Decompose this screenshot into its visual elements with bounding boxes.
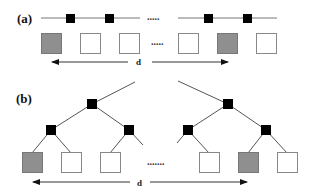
panel-a-label: (a) bbox=[17, 11, 32, 26]
node bbox=[204, 14, 213, 23]
leaf bbox=[101, 153, 121, 173]
leaf-highlighted bbox=[239, 153, 259, 173]
node bbox=[66, 14, 75, 23]
panel-b-distance-arrow: d bbox=[33, 178, 247, 188]
panel-a-chain-right bbox=[178, 14, 277, 23]
distance-label: d bbox=[137, 178, 142, 188]
box bbox=[81, 34, 101, 54]
distance-label: d bbox=[136, 57, 141, 67]
node bbox=[261, 125, 271, 135]
ellipsis: ..... bbox=[147, 11, 160, 22]
leaf-highlighted bbox=[23, 153, 43, 173]
node bbox=[243, 14, 252, 23]
panel-b-tree-right-nodes bbox=[183, 99, 271, 135]
ellipsis: ....... bbox=[147, 156, 165, 167]
panel-b-tree-right bbox=[177, 81, 287, 153]
box bbox=[120, 34, 140, 54]
ellipsis: ..... bbox=[151, 36, 164, 47]
panel-b-tree-left bbox=[32, 82, 143, 153]
box bbox=[257, 34, 277, 54]
panel-b-label: (b) bbox=[16, 91, 32, 106]
node bbox=[87, 99, 97, 109]
panel-a-distance-arrow: d bbox=[52, 57, 228, 67]
panel-b-leaves-left bbox=[23, 153, 121, 173]
box-highlighted bbox=[218, 34, 238, 54]
leaf bbox=[200, 153, 220, 173]
panel-a-chain-left bbox=[41, 14, 140, 23]
panel-b-leaves-right bbox=[200, 153, 298, 173]
leaf bbox=[62, 153, 82, 173]
box-highlighted bbox=[42, 34, 62, 54]
node bbox=[105, 14, 114, 23]
panel-a: (a) ..... ..... d bbox=[17, 11, 277, 67]
node bbox=[46, 125, 56, 135]
panel-b-tree-left-nodes bbox=[46, 99, 134, 135]
panel-b: (b) ....... bbox=[16, 81, 298, 188]
leaf bbox=[278, 153, 298, 173]
diagram: (a) ..... ..... d (b) bbox=[0, 0, 313, 196]
box bbox=[179, 34, 199, 54]
node bbox=[124, 125, 134, 135]
panel-a-boxes: ..... bbox=[42, 34, 277, 54]
diagram-svg: (a) ..... ..... d (b) bbox=[0, 0, 313, 196]
node bbox=[183, 125, 193, 135]
node bbox=[223, 99, 233, 109]
